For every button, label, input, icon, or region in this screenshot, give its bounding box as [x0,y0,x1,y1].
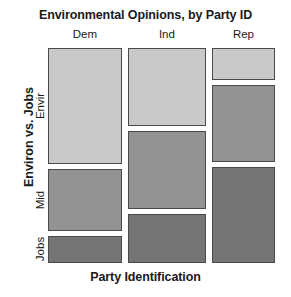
mosaic-tile-rep-jobs [212,167,275,263]
mosaic-tile-dem-jobs [48,236,122,263]
mosaic-plot-figure: Environmental Opinions, by Party ID Dem … [0,0,291,297]
row-label-envir: Envir [33,76,47,136]
mosaic-tile-ind-jobs [128,214,206,263]
mosaic-column-ind [128,48,206,263]
chart-title: Environmental Opinions, by Party ID [0,8,291,22]
mosaic-tile-rep-mid [212,85,275,162]
x-axis-title: Party Identification [0,270,291,284]
mosaic-column-dem [48,48,122,263]
mosaic-tile-dem-envir [48,48,122,164]
mosaic-tile-dem-mid [48,169,122,231]
mosaic-tile-ind-mid [128,131,206,209]
column-label-ind: Ind [128,28,206,40]
mosaic-tile-ind-envir [128,48,206,126]
mosaic-column-rep [212,48,275,263]
mosaic-plot-area [48,48,275,263]
column-label-dem: Dem [48,28,122,40]
mosaic-tile-rep-envir [212,48,275,80]
column-label-rep: Rep [212,28,275,40]
